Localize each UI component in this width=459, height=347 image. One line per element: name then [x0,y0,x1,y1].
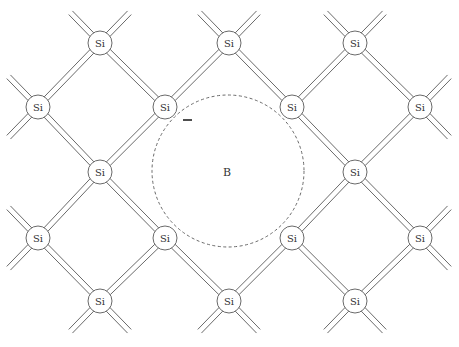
bond-line [98,236,163,299]
silicon-atom: Si [26,95,50,119]
atom-label: Si [33,233,43,244]
silicon-atom: Si [88,160,112,184]
bond-line [290,170,353,236]
silicon-atom: Si [408,226,432,250]
bond-line [36,240,98,303]
bond-line [102,240,167,303]
silicon-atom: Si [343,31,367,55]
silicon-atom: Si [343,160,367,184]
silicon-atom: Si [26,226,50,250]
atom-label: Si [350,38,360,49]
bond-line [227,236,290,299]
atom-label: Si [33,102,43,113]
bond-line [36,170,98,236]
bond-line [294,105,357,170]
bond-line [40,174,102,240]
bond-line [36,109,98,174]
bond-line [353,45,418,109]
silicon-atom: Si [280,226,304,250]
silicon-atom: Si [153,95,177,119]
bond-line [231,240,294,303]
bond-line [40,105,102,170]
boron-impurity-region: B [152,95,304,247]
bond-line [36,41,98,105]
atom-label: Si [224,38,234,49]
atom-label: Si [95,38,105,49]
atom-label: Si [415,102,425,113]
atom-label: Si [350,296,360,307]
bond-line [357,170,422,236]
bond-line [294,236,357,299]
silicon-atom: Si [88,289,112,313]
silicon-atom: Si [280,95,304,119]
bond-line [102,41,167,105]
bond-line [357,41,422,105]
bond-line [98,45,163,109]
bond-line [167,236,231,299]
atom-label: Si [95,167,105,178]
atom-label: Si [287,102,297,113]
bond-line [294,45,357,109]
bond-line [290,109,353,174]
bond-line [163,240,227,303]
bond-line [353,236,418,299]
atom-label: Si [160,102,170,113]
bond-line [98,105,163,170]
boron-label: B [223,166,231,179]
bond-line [102,170,167,236]
bond-line [102,109,167,174]
bond-line [353,174,418,240]
atom-label: Si [350,167,360,178]
atom-label: Si [224,296,234,307]
bond-line [227,45,290,109]
bond-line [357,109,422,174]
bond-line [353,105,418,170]
atom-label: Si [95,296,105,307]
silicon-atom: Si [217,31,241,55]
atom-label: Si [415,233,425,244]
silicon-atom: Si [343,289,367,313]
bond-line [290,240,353,303]
silicon-atom: Si [408,95,432,119]
bond-line [40,236,102,299]
lattice-diagram: B SiSiSiSiSiSiSiSiSiSiSiSiSiSiSiSi [0,0,459,347]
bond-line [290,41,353,105]
atom-label: Si [287,233,297,244]
bond-line [167,45,231,109]
bond-line [357,240,422,303]
atom-label: Si [160,233,170,244]
silicon-atom: Si [217,289,241,313]
silicon-atom: Si [88,31,112,55]
bond-line [40,45,102,109]
silicon-atom: Si [153,226,177,250]
